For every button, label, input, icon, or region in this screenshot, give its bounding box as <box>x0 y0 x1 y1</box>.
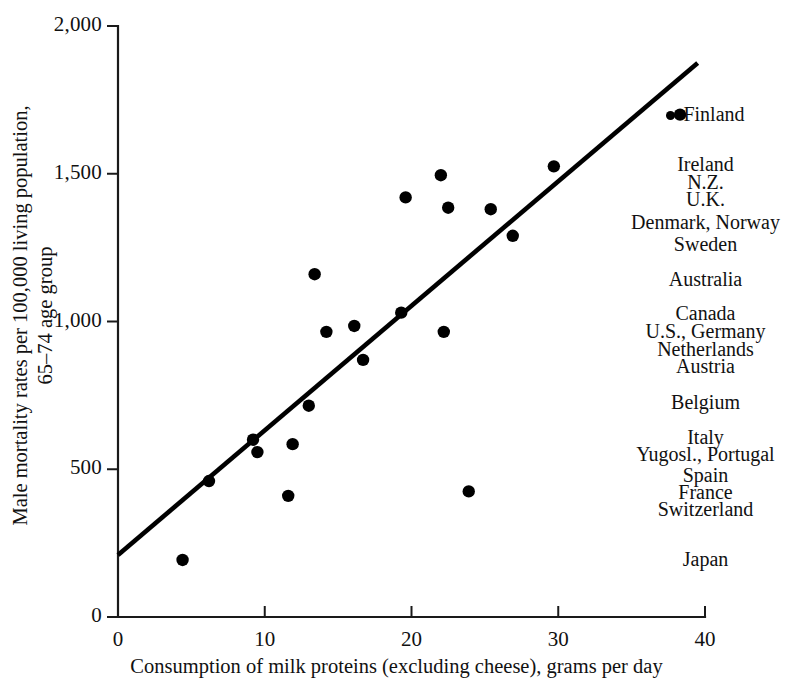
plot-axes <box>118 26 705 617</box>
country-label: Belgium <box>618 392 793 412</box>
data-point <box>308 268 320 280</box>
x-tick-label: 10 <box>225 627 305 652</box>
country-label-text: Finland <box>683 103 744 125</box>
country-label: Finland <box>618 104 793 124</box>
country-label: U.K. <box>618 189 793 209</box>
data-point <box>282 490 294 502</box>
data-point <box>203 475 215 487</box>
data-point <box>399 191 411 203</box>
data-point <box>286 438 298 450</box>
data-points <box>176 108 686 566</box>
legend-marker-dot <box>666 111 675 120</box>
data-point <box>303 400 315 412</box>
x-tick-label: 20 <box>372 627 452 652</box>
data-point <box>395 306 407 318</box>
data-point <box>463 485 475 497</box>
data-point <box>548 160 560 172</box>
y-tick-label: 500 <box>70 455 102 480</box>
data-point <box>247 434 259 446</box>
axis-ticks <box>107 26 705 617</box>
country-annotation-list: FinlandIrelandN.Z.U.K.Denmark, NorwaySwe… <box>618 0 793 671</box>
y-axis-title-line1: Male mortality rates per 100,000 living … <box>8 20 33 611</box>
y-tick-label: 1,000 <box>54 308 102 333</box>
data-point <box>485 203 497 215</box>
data-point <box>251 446 263 458</box>
data-point <box>320 326 332 338</box>
y-axis-title-line2: 65–74 age group <box>33 20 58 611</box>
data-point <box>357 354 369 366</box>
y-tick-label: 2,000 <box>54 12 102 37</box>
data-point <box>176 554 188 566</box>
country-label: Austria <box>618 356 793 376</box>
data-point <box>435 169 447 181</box>
country-label: Yugosl., Portugal <box>618 444 793 464</box>
data-point <box>507 230 519 242</box>
data-point <box>438 326 450 338</box>
country-label: Switzerland <box>618 499 793 519</box>
data-point <box>348 320 360 332</box>
country-label: Japan <box>618 549 793 569</box>
x-tick-label: 0 <box>78 627 158 652</box>
y-tick-label: 0 <box>91 603 102 628</box>
x-tick-label: 30 <box>518 627 598 652</box>
country-label: Denmark, Norway <box>618 212 793 232</box>
country-label: Australia <box>618 269 793 289</box>
y-tick-label: 1,500 <box>54 160 102 185</box>
data-point <box>442 202 454 214</box>
country-label: Sweden <box>618 234 793 254</box>
y-axis-title: Male mortality rates per 100,000 living … <box>8 20 58 611</box>
